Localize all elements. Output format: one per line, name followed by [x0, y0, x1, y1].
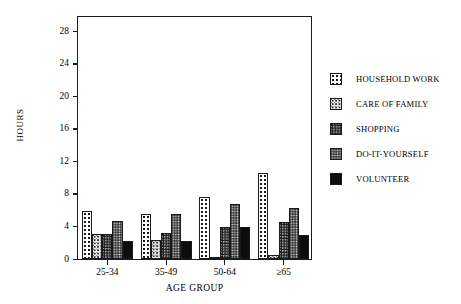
legend-item: DO-IT-YOURSELF: [330, 141, 440, 166]
bar-chart: HOURS 048121620242825-3435-4950-64≥65 AG…: [0, 0, 461, 304]
x-tick-mark: [283, 259, 284, 265]
bar: [289, 208, 299, 259]
y-tick-mark: [73, 226, 78, 227]
y-tick-label: 8: [64, 187, 69, 199]
bar: [171, 214, 181, 259]
y-tick-mark: [73, 96, 78, 97]
bar: [220, 227, 230, 259]
bar: [230, 204, 240, 259]
y-tick-label: 16: [60, 122, 70, 134]
legend: HOUSEHOLD WORKCARE OF FAMILYSHOPPINGDO-I…: [330, 66, 440, 191]
legend-label: VOLUNTEER: [356, 174, 409, 184]
plot-area: 048121620242825-3435-4950-64≥65: [77, 16, 312, 260]
legend-item: HOUSEHOLD WORK: [330, 66, 440, 91]
legend-label: HOUSEHOLD WORK: [356, 74, 440, 84]
bar: [279, 222, 289, 259]
y-tick-mark: [73, 161, 78, 162]
bar: [240, 227, 250, 259]
y-tick-mark: [73, 128, 78, 129]
bar: [299, 235, 309, 259]
legend-label: SHOPPING: [356, 124, 400, 134]
legend-swatch: [330, 173, 342, 185]
y-tick-label: 20: [60, 90, 70, 102]
legend-swatch: [330, 123, 342, 135]
bar: [123, 241, 133, 259]
bar: [141, 214, 151, 259]
bar: [112, 221, 122, 259]
legend-swatch: [330, 73, 342, 85]
y-tick-mark: [73, 63, 78, 64]
x-tick-mark: [166, 259, 167, 265]
legend-item: SHOPPING: [330, 116, 440, 141]
y-tick-label: 4: [64, 220, 69, 232]
bar: [199, 197, 209, 259]
legend-item: CARE OF FAMILY: [330, 91, 440, 116]
bar: [151, 240, 161, 259]
bar: [268, 255, 278, 259]
bar: [161, 233, 171, 259]
plot-inner: 048121620242825-3435-4950-64≥65: [78, 17, 311, 259]
legend-swatch: [330, 98, 342, 110]
legend-swatch: [330, 148, 342, 160]
x-axis-title: AGE GROUP: [77, 283, 312, 293]
y-tick-mark: [73, 31, 78, 32]
y-tick-label: 12: [60, 155, 70, 167]
y-axis-title: HOURS: [15, 85, 25, 165]
bar: [258, 173, 268, 259]
y-tick-mark: [73, 193, 78, 194]
y-tick-mark: [73, 259, 78, 260]
y-tick-label: 0: [64, 253, 69, 265]
y-tick-label: 24: [60, 57, 70, 69]
legend-label: CARE OF FAMILY: [356, 99, 428, 109]
x-tick-label: ≥65: [244, 267, 324, 277]
y-tick-label: 28: [60, 25, 70, 37]
legend-item: VOLUNTEER: [330, 166, 440, 191]
bar: [82, 211, 92, 259]
bar: [102, 234, 112, 259]
x-tick-mark: [107, 259, 108, 265]
x-tick-mark: [224, 259, 225, 265]
bar: [92, 234, 102, 259]
bar: [210, 257, 220, 259]
legend-label: DO-IT-YOURSELF: [356, 149, 429, 159]
bar: [181, 241, 191, 259]
